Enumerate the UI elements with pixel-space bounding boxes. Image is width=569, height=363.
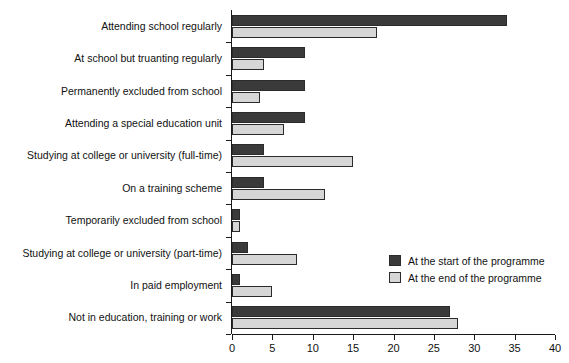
bar-end-of-programme [232,156,353,167]
legend-label: At the end of the programme [408,272,542,284]
category-label: Attending school regularly [101,20,222,32]
y-axis-tick [226,42,231,43]
x-axis-tick [394,335,395,340]
x-axis-tick [313,335,314,340]
category-label: In paid employment [130,279,222,291]
bar-start-of-programme [232,306,450,317]
x-axis-tick [434,335,435,340]
bar-end-of-programme [232,27,377,38]
bar-group [232,177,555,200]
x-axis-tick-label: 25 [419,342,449,355]
legend-label: At the start of the programme [408,255,545,267]
bar-group [232,306,555,329]
category-label: Attending a special education unit [65,117,222,129]
bar-chart: Attending school regularlyAt school but … [0,0,569,363]
y-axis-tick [226,302,231,303]
bar-start-of-programme [232,242,248,253]
bar-start-of-programme [232,47,305,58]
bar-group [232,80,555,103]
legend-item: At the end of the programme [389,269,545,286]
bar-group [232,47,555,70]
bar-end-of-programme [232,189,325,200]
x-axis-tick-label: 35 [500,342,530,355]
bar-end-of-programme [232,59,264,70]
bar-start-of-programme [232,209,240,220]
bar-start-of-programme [232,274,240,285]
bar-start-of-programme [232,112,305,123]
legend-swatch-end [389,272,401,283]
category-label: Not in education, training or work [69,311,223,323]
legend-item: At the start of the programme [389,252,545,269]
x-axis-tick-label: 0 [217,342,247,355]
bar-group [232,144,555,167]
bar-group [232,15,555,38]
bar-start-of-programme [232,80,305,91]
y-axis-tick [226,269,231,270]
y-axis-tick [226,334,231,335]
bar-end-of-programme [232,318,458,329]
legend-swatch-start [389,255,401,266]
bar-group [232,112,555,135]
bar-end-of-programme [232,221,240,232]
y-axis-tick [226,75,231,76]
x-axis-tick-label: 40 [540,342,569,355]
bar-start-of-programme [232,177,264,188]
y-axis-tick [226,140,231,141]
x-axis-tick-label: 30 [459,342,489,355]
x-axis-tick-label: 5 [257,342,287,355]
bar-end-of-programme [232,254,297,265]
y-axis-tick [226,237,231,238]
x-axis-tick [515,335,516,340]
chart-legend: At the start of the programmeAt the end … [389,252,545,286]
bar-end-of-programme [232,124,284,135]
bar-start-of-programme [232,144,264,155]
x-axis-tick-label: 10 [298,342,328,355]
bar-end-of-programme [232,286,272,297]
bar-start-of-programme [232,15,507,26]
category-label: Permanently excluded from school [61,85,222,97]
y-axis-tick [226,107,231,108]
category-label: Temporarily excluded from school [66,214,222,226]
y-axis-tick [226,204,231,205]
x-axis-tick [232,335,233,340]
x-axis-tick [272,335,273,340]
y-axis-tick [226,172,231,173]
x-axis: 0510152025303540 [232,334,555,363]
category-label: On a training scheme [122,182,222,194]
x-axis-tick-label: 20 [379,342,409,355]
category-axis: Attending school regularlyAt school but … [0,0,228,334]
x-axis-tick-label: 15 [338,342,368,355]
x-axis-tick [555,335,556,340]
category-label: Studying at college or university (part-… [22,247,222,259]
bar-end-of-programme [232,92,260,103]
category-label: At school but truanting regularly [74,52,222,64]
category-label: Studying at college or university (full-… [27,149,222,161]
x-axis-tick [474,335,475,340]
bar-group [232,209,555,232]
x-axis-tick [353,335,354,340]
